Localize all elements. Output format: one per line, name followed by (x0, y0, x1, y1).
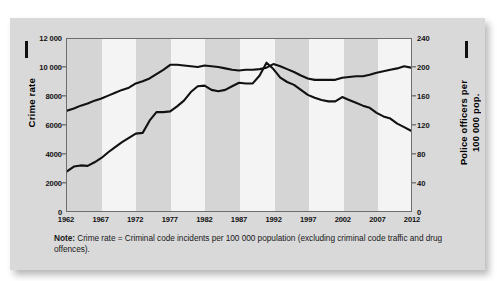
police-officers-key-bar (465, 41, 468, 58)
x-tick-label: 1992 (265, 215, 281, 224)
y-tick-mark-right (412, 124, 416, 125)
y-tick-mark-right (412, 182, 416, 183)
x-tick-label: 1982 (196, 215, 212, 224)
y-tick-label-left: 6000 (46, 121, 63, 130)
plot-wrapper: 0200040006000800010 00012 000 0408012016… (66, 38, 412, 212)
y-tick-label-right: 240 (417, 34, 430, 43)
y-tick-label-left: 8000 (46, 92, 63, 101)
figure-note: Note: Crime rate = Criminal code inciden… (54, 233, 454, 255)
y-axis-title-right: Police officers per 100 000 pop. (458, 80, 482, 165)
y-tick-label-right: 40 (417, 179, 425, 188)
note-text: Crime rate = Criminal code incidents per… (54, 233, 442, 254)
y-axis-title-left: Crime rate (26, 78, 37, 127)
y-tick-label-right: 80 (417, 150, 425, 159)
y-tick-mark-right (412, 95, 416, 96)
y-tick-label-right: 160 (417, 92, 430, 101)
x-tick-label: 1962 (58, 215, 74, 224)
y-tick-label-left: 12 000 (39, 34, 62, 43)
x-tick-label: 2002 (335, 215, 351, 224)
y-tick-mark-right (412, 153, 416, 154)
note-label: Note: (54, 233, 75, 243)
crime-rate-key-bar (25, 41, 28, 58)
x-tick-label: 1967 (92, 215, 108, 224)
screenshot-root: Crime rate Police officers per 100 000 p… (0, 0, 497, 281)
figure-card: Crime rate Police officers per 100 000 p… (10, 18, 485, 270)
y-tick-mark-right (412, 66, 416, 67)
x-tick-label: 1997 (300, 215, 316, 224)
x-tick-label: 1977 (162, 215, 178, 224)
x-tick-label: 2007 (369, 215, 385, 224)
y-tick-label-left: 4000 (46, 150, 63, 159)
x-tick-label: 1987 (231, 215, 247, 224)
y-tick-label-left: 2000 (46, 179, 63, 188)
x-axis-ticks: 1962196719721977198219871992199720022007… (66, 38, 412, 212)
y-tick-label-right: 120 (417, 121, 430, 130)
y-tick-label-right: 200 (417, 63, 430, 72)
x-tick-label: 2012 (404, 215, 420, 224)
y-axis-title-right-line2: 100 000 pop. (470, 93, 481, 152)
x-tick-label: 1972 (127, 215, 143, 224)
y-tick-label-left: 10 000 (39, 63, 62, 72)
y-axis-title-right-line1: Police officers per (458, 80, 469, 165)
